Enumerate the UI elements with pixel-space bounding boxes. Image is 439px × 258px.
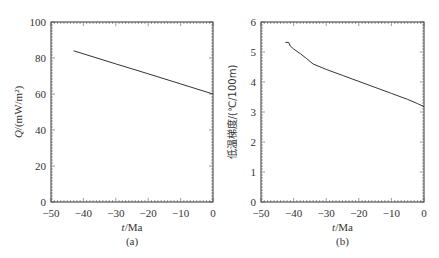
x-tick-label: −50 [252,207,270,219]
x-tick-label: −20 [140,207,158,219]
tick-marks [261,22,424,202]
y-tick-label: 5 [251,46,257,58]
y-tick-label: 2 [251,136,257,148]
x-tick-label: −30 [107,207,125,219]
chart-panel-b: −50−40−30−20−1000123456t/Ma(b)低温梯度/(℃/10… [226,16,427,248]
chart-panel-a: −50−40−30−20−100020406080100t/Ma(a)Q/(mW… [12,16,216,248]
x-tick-label: −40 [285,207,303,219]
plot-frame [51,22,213,202]
y-tick-label: 100 [30,16,47,28]
x-tick-label: −20 [350,207,368,219]
x-axis-label: t/Ma [332,221,353,233]
y-tick-label: 60 [35,88,47,100]
x-axis-label: t/Ma [122,221,143,233]
y-tick-label: 3 [251,106,257,118]
y-tick-label: 1 [251,166,257,178]
y-tick-label: 0 [251,196,257,208]
tick-marks [51,22,213,202]
x-tick-label: −40 [75,207,93,219]
x-tick-label: −30 [318,207,336,219]
data-line [74,51,213,94]
y-tick-label: 20 [35,160,47,172]
x-tick-label: −50 [42,207,60,219]
y-tick-label: 40 [35,124,47,136]
x-tick-label: −10 [383,207,401,219]
y-tick-label: 6 [251,16,257,28]
panel-label: (b) [336,235,349,248]
x-tick-label: −10 [172,207,190,219]
x-tick-label: 0 [421,207,427,219]
y-axis-label: Q/(mW/m²) [12,86,25,139]
y-axis-label: 低温梯度/(℃/100m) [226,65,238,160]
y-tick-label: 4 [251,76,257,88]
y-tick-label: 80 [35,52,47,64]
panel-label: (a) [126,235,139,248]
y-tick-label: 0 [41,196,47,208]
x-tick-label: 0 [210,207,216,219]
plot-frame [261,22,424,202]
chart-figure: −50−40−30−20−100020406080100t/Ma(a)Q/(mW… [0,0,439,258]
data-line [285,42,424,106]
